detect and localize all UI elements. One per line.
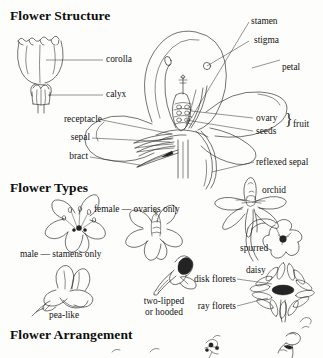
heading-flower-types: Flower Types	[10, 180, 88, 196]
label-pea-like: pea-like	[49, 310, 79, 321]
label-spurred: spurred	[240, 243, 268, 254]
label-ovary: ovary	[256, 113, 277, 124]
label-stamen: stamen	[251, 16, 278, 27]
label-sepal: sepal	[20, 132, 90, 143]
pea-like-flower-illustration	[32, 265, 93, 316]
diagram-page: Flower Structure Flower Types Flower Arr…	[0, 0, 323, 358]
label-orchid: orchid	[262, 185, 286, 196]
label-disk-florets: disk florets	[178, 274, 236, 285]
label-female-ovaries-only: female — ovaries only	[94, 204, 180, 215]
label-bract: bract	[20, 151, 88, 162]
label-ray-florets: ray florets	[178, 301, 236, 312]
label-receptacle: receptacle	[20, 114, 102, 125]
spurred-flower-illustration	[246, 219, 302, 261]
label-reflexed-sepal: reflexed sepal	[256, 157, 308, 168]
label-fruit: fruit	[293, 119, 309, 130]
label-corolla: corolla	[106, 54, 132, 65]
flower-arrangement-partial-illustrations	[112, 318, 311, 358]
label-seeds: seeds	[256, 126, 276, 137]
heading-flower-arrangement: Flower Arrangement	[10, 327, 133, 343]
label-stigma: stigma	[254, 35, 279, 46]
tubular-flower-illustration	[18, 36, 103, 113]
fruit-brace: }	[285, 112, 293, 128]
label-male-stamens-only: male — stamens only	[20, 249, 102, 260]
label-petal: petal	[282, 62, 300, 73]
label-calyx: calyx	[106, 89, 126, 100]
label-daisy: daisy	[246, 265, 266, 276]
heading-flower-structure: Flower Structure	[10, 8, 110, 24]
